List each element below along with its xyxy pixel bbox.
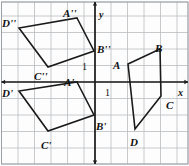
x-axis-arrow-right [184, 80, 188, 84]
vertex-label-Ap: A' [64, 77, 74, 88]
y-axis-arrow-down [93, 160, 97, 164]
vertex-label-Cpp: C'' [34, 71, 47, 82]
figure-canvas [0, 0, 189, 166]
vertex-label-B: B [155, 43, 162, 54]
vertex-label-Dp: D' [2, 88, 13, 99]
vertex-label-D: D [130, 137, 138, 148]
vertex-label-App: A'' [63, 8, 76, 19]
y-axis-arrow-up [93, 2, 97, 6]
vertex-label-Bp: B' [96, 121, 106, 132]
vertex-label-Cp: C' [41, 140, 51, 151]
vertex-label-Dpp: D'' [2, 18, 16, 29]
unit-tick-label-y: 1 [82, 62, 87, 72]
y-axis-label: y [99, 10, 103, 20]
coordinate-plane-figure: ABCDA'B'C'D'A''B''C''D''xy11 [0, 0, 189, 166]
quadrilateral-ApBpCpDp [19, 82, 94, 131]
vertex-label-Bpp: B'' [97, 44, 110, 55]
quadrilateral-ABCD [128, 49, 161, 129]
quadrilateral-AppBppCppDpp [19, 18, 94, 67]
unit-tick-label-x: 1 [105, 88, 110, 98]
vertex-label-A: A [113, 60, 120, 71]
x-axis-label: x [178, 88, 183, 98]
vertex-label-C: C [166, 100, 173, 111]
x-axis-arrow-left [2, 80, 6, 84]
